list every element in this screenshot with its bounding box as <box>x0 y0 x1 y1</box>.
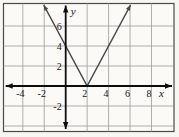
graph-canvas: -4-22468642-2 yx <box>0 0 179 137</box>
x-tick-label: 6 <box>125 88 130 99</box>
x-tick-label: 4 <box>104 88 109 99</box>
y-axis-label: y <box>70 5 76 17</box>
x-axis-label: x <box>158 87 164 99</box>
y-tick-label: 6 <box>57 21 62 32</box>
x-tick-label: 2 <box>82 88 87 99</box>
y-tick-label: 2 <box>57 61 62 72</box>
x-tick-label: -2 <box>38 88 46 99</box>
graph-figure: -4-22468642-2 yx <box>0 0 179 137</box>
x-tick-label: 8 <box>146 88 151 99</box>
y-tick-label: 4 <box>57 41 62 52</box>
x-tick-label: -4 <box>16 88 24 99</box>
plot-border <box>4 4 175 132</box>
y-tick-label: -2 <box>53 101 61 112</box>
